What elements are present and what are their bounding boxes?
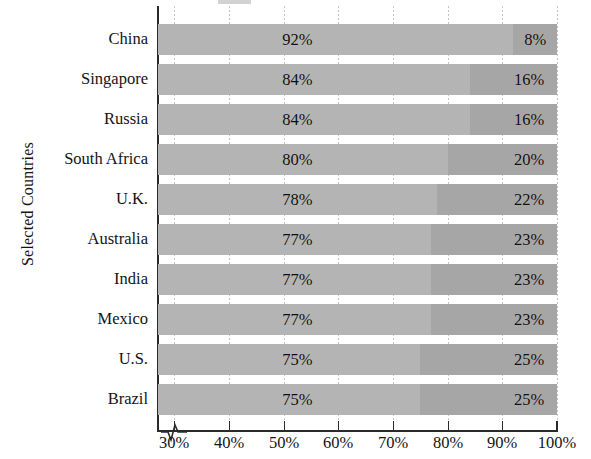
x-tick-mark: [174, 421, 175, 431]
segment-1-value-label: 75%: [282, 390, 312, 410]
x-tick-mark: [338, 421, 339, 431]
x-tick-label: 70%: [378, 433, 408, 453]
bar-segment-1[interactable]: [158, 24, 513, 55]
bar-row: Australia77%23%: [0, 224, 591, 255]
segment-1-value-label: 77%: [282, 270, 312, 290]
stacked-bar[interactable]: 84%16%: [158, 104, 557, 135]
x-tick-label: 40%: [214, 433, 244, 453]
category-label: U.S.: [0, 349, 148, 369]
stacked-bar[interactable]: 84%16%: [158, 64, 557, 95]
bar-row: India77%23%: [0, 264, 591, 295]
category-label: Australia: [0, 229, 148, 249]
bar-segment-1[interactable]: [158, 104, 470, 135]
segment-1-value-label: 80%: [282, 150, 312, 170]
segment-1-value-label: 84%: [282, 110, 312, 130]
segment-1-value-label: 84%: [282, 70, 312, 90]
category-label: Brazil: [0, 389, 148, 409]
segment-2-value-label: 23%: [514, 230, 544, 250]
segment-1-value-label: 77%: [282, 230, 312, 250]
legend-swatch-cropped: [218, 0, 251, 4]
x-tick-mark: [448, 421, 449, 431]
bar-row: China92%8%: [0, 24, 591, 55]
x-tick-mark: [502, 421, 503, 431]
x-tick-label: 90%: [487, 433, 517, 453]
category-label: South Africa: [0, 149, 148, 169]
category-label: Russia: [0, 109, 148, 129]
x-tick-label: 60%: [323, 433, 353, 453]
segment-2-value-label: 22%: [514, 190, 544, 210]
bar-row: Russia84%16%: [0, 104, 591, 135]
stacked-bar[interactable]: 92%8%: [158, 24, 557, 55]
bar-row: U.K.78%22%: [0, 184, 591, 215]
stacked-bar[interactable]: 77%23%: [158, 264, 557, 295]
segment-2-value-label: 23%: [514, 310, 544, 330]
bar-segment-1[interactable]: [158, 64, 470, 95]
stacked-bar-chart: Selected Countries 30%40%50%60%70%80%90%…: [0, 0, 591, 459]
x-tick-mark: [229, 421, 230, 431]
bar-row: Mexico77%23%: [0, 304, 591, 335]
segment-1-value-label: 75%: [282, 350, 312, 370]
segment-2-value-label: 23%: [514, 270, 544, 290]
category-label: Mexico: [0, 309, 148, 329]
segment-2-value-label: 20%: [514, 150, 544, 170]
category-label: China: [0, 29, 148, 49]
x-tick-label: 50%: [269, 433, 299, 453]
segment-1-value-label: 78%: [282, 190, 312, 210]
x-tick-mark: [393, 421, 394, 431]
stacked-bar[interactable]: 75%25%: [158, 384, 557, 415]
stacked-bar[interactable]: 75%25%: [158, 344, 557, 375]
segment-2-value-label: 25%: [514, 350, 544, 370]
x-tick-mark: [284, 421, 285, 431]
bar-row: Singapore84%16%: [0, 64, 591, 95]
segment-2-value-label: 16%: [514, 70, 544, 90]
segment-2-value-label: 8%: [524, 30, 546, 50]
bar-row: Brazil75%25%: [0, 384, 591, 415]
category-label: India: [0, 269, 148, 289]
segment-1-value-label: 92%: [282, 30, 312, 50]
category-label: U.K.: [0, 189, 148, 209]
x-tick-label: 30%: [159, 433, 189, 453]
stacked-bar[interactable]: 78%22%: [158, 184, 557, 215]
segment-1-value-label: 77%: [282, 310, 312, 330]
x-tick-label: 100%: [538, 433, 577, 453]
segment-2-value-label: 25%: [514, 390, 544, 410]
stacked-bar[interactable]: 77%23%: [158, 304, 557, 335]
x-axis-line: [157, 430, 558, 432]
bar-row: U.S.75%25%: [0, 344, 591, 375]
stacked-bar[interactable]: 77%23%: [158, 224, 557, 255]
segment-2-value-label: 16%: [514, 110, 544, 130]
stacked-bar[interactable]: 80%20%: [158, 144, 557, 175]
bar-row: South Africa80%20%: [0, 144, 591, 175]
x-tick-label: 80%: [433, 433, 463, 453]
x-tick-mark: [557, 421, 558, 431]
category-label: Singapore: [0, 69, 148, 89]
